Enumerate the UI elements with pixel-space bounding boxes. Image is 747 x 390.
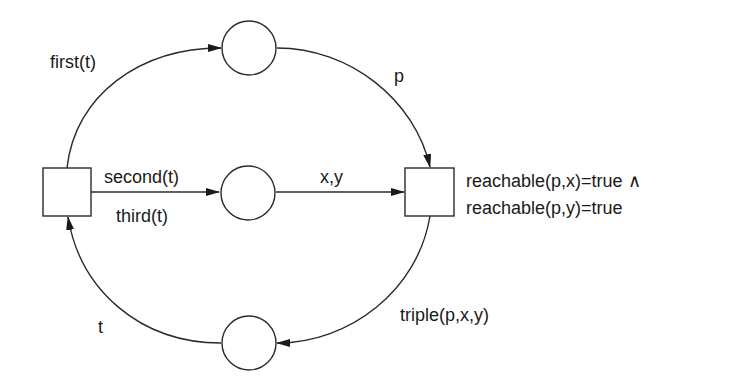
guard-line-2: reachable(p,y)=true <box>466 198 623 218</box>
arc-label-p: p <box>394 66 404 86</box>
petri-net-diagram: first(t) p second(t) third(t) x,y triple… <box>0 0 747 390</box>
arc-label-second: second(t) <box>104 167 179 187</box>
arc-label-third: third(t) <box>116 206 168 226</box>
arc-label-t: t <box>98 317 103 337</box>
transition-left <box>43 168 91 216</box>
arc-label-first: first(t) <box>50 52 96 72</box>
arc-label-xy: x,y <box>320 167 343 187</box>
place-top <box>222 21 276 75</box>
place-bottom <box>222 316 276 370</box>
arc-label-triple: triple(p,x,y) <box>400 305 489 325</box>
guard-line-1: reachable(p,x)=true ∧ <box>466 171 641 191</box>
arc-t <box>68 217 221 343</box>
transition-right <box>405 168 454 216</box>
place-middle <box>221 166 275 220</box>
arc-p <box>277 48 430 167</box>
